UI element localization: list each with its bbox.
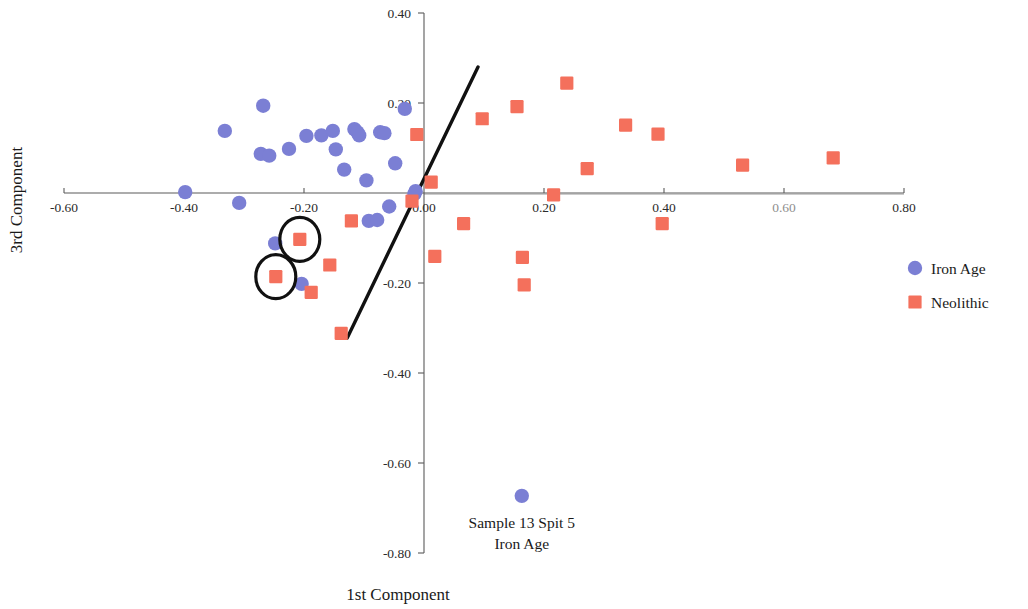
data-point-circle[interactable] <box>370 213 384 227</box>
data-point-square[interactable] <box>560 77 573 90</box>
data-point-square[interactable] <box>476 112 489 125</box>
data-point-circle[interactable] <box>382 199 396 213</box>
series-iron-age <box>178 99 529 504</box>
x-axis-tick-label: 0.20 <box>532 200 556 215</box>
x-axis-tick-label: 0.80 <box>892 200 916 215</box>
data-point-square[interactable] <box>425 176 438 189</box>
data-point-circle[interactable] <box>388 156 402 170</box>
data-point-circle[interactable] <box>337 162 351 176</box>
x-axis-tick-label: -0.60 <box>50 200 78 215</box>
x-axis-title: 1st Component <box>346 585 450 604</box>
data-point-square[interactable] <box>619 118 632 131</box>
point-annotation-line: Sample 13 Spit 5 <box>469 514 576 531</box>
axis-titles-and-annotations-layer: 1st Component3rd ComponentSample 13 Spit… <box>7 147 575 604</box>
x-axis-tick-label: -0.40 <box>170 200 198 215</box>
data-point-circle[interactable] <box>262 148 276 162</box>
data-point-square[interactable] <box>405 195 418 208</box>
axes-layer: -0.60-0.40-0.200.000.200.400.600.800.400… <box>50 6 916 561</box>
data-point-square[interactable] <box>410 128 423 141</box>
y-axis-tick-label: -0.20 <box>383 276 411 291</box>
data-point-circle[interactable] <box>329 142 343 156</box>
legend-marker-square[interactable] <box>908 295 921 308</box>
scatter-plot-figure: -0.60-0.40-0.200.000.200.400.600.800.400… <box>0 0 1028 609</box>
data-point-circle[interactable] <box>377 126 391 140</box>
data-point-circle[interactable] <box>282 142 296 156</box>
data-point-square[interactable] <box>516 251 529 264</box>
data-point-square[interactable] <box>428 250 441 263</box>
data-point-square[interactable] <box>457 217 470 230</box>
data-point-circle[interactable] <box>352 128 366 142</box>
data-point-square[interactable] <box>335 327 348 340</box>
legend-layer: Iron AgeNeolithic <box>908 260 989 311</box>
data-point-circle[interactable] <box>359 173 373 187</box>
data-point-circle[interactable] <box>299 129 313 143</box>
data-point-square[interactable] <box>305 286 318 299</box>
data-points-layer <box>178 77 840 503</box>
x-axis-tick-label: 0.60 <box>772 200 796 215</box>
data-point-circle[interactable] <box>178 185 192 199</box>
data-point-circle[interactable] <box>326 124 340 138</box>
legend-label: Iron Age <box>931 260 986 277</box>
data-point-square[interactable] <box>581 162 594 175</box>
data-point-square[interactable] <box>827 151 840 164</box>
y-axis-tick-label: -0.40 <box>383 366 411 381</box>
data-point-square[interactable] <box>269 270 282 283</box>
y-axis-title: 3rd Component <box>7 147 26 254</box>
data-point-circle[interactable] <box>398 102 412 116</box>
data-point-square[interactable] <box>293 233 306 246</box>
data-point-square[interactable] <box>345 214 358 227</box>
data-point-square[interactable] <box>736 159 749 172</box>
data-point-circle[interactable] <box>218 124 232 138</box>
legend-label: Neolithic <box>931 294 989 311</box>
y-axis-tick-label: -0.60 <box>383 456 411 471</box>
x-axis-tick-label: 0.40 <box>652 200 676 215</box>
y-axis-tick-label: -0.80 <box>383 546 411 561</box>
data-point-circle[interactable] <box>256 99 270 113</box>
legend-marker-circle[interactable] <box>908 261 922 275</box>
data-point-square[interactable] <box>510 100 523 113</box>
data-point-square[interactable] <box>656 217 669 230</box>
data-point-square[interactable] <box>651 127 664 140</box>
data-point-circle[interactable] <box>515 489 529 503</box>
x-axis-tick-label: -0.20 <box>290 200 318 215</box>
data-point-square[interactable] <box>323 258 336 271</box>
data-point-square[interactable] <box>518 278 531 291</box>
y-axis-tick-label: 0.40 <box>387 6 411 21</box>
point-annotation-line: Iron Age <box>494 535 549 552</box>
plot-canvas: -0.60-0.40-0.200.000.200.400.600.800.400… <box>0 0 1028 609</box>
data-point-square[interactable] <box>547 188 560 201</box>
data-point-circle[interactable] <box>232 196 246 210</box>
